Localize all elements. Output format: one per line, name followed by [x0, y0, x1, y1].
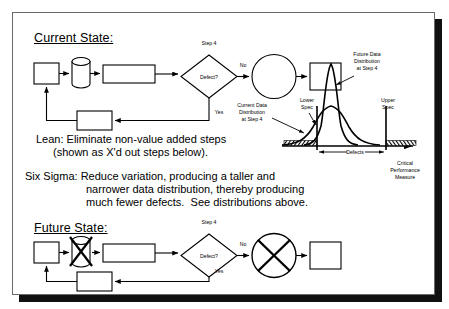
defect-region-upper — [386, 141, 416, 146]
current-path-yes — [115, 98, 209, 121]
current-state-heading: Current State: — [34, 31, 113, 45]
upper-spec-label-line1: Upper — [371, 97, 405, 104]
slide-root: Current State: Future State: Lean: Elimi… — [0, 0, 449, 309]
lean-text-line-2: (shown as X'd out steps below). — [53, 146, 208, 158]
future-state-heading: Future State: — [34, 221, 108, 235]
future-no-label: No — [235, 241, 251, 248]
current-distribution-label-line2: Distribution — [229, 109, 275, 116]
future-path-rework-to-start — [47, 266, 78, 282]
current-cylinder-shape — [72, 58, 90, 88]
current-process-box — [103, 65, 155, 83]
sixsigma-text-line-2: narrower data distribution, thereby prod… — [86, 183, 304, 195]
current-state-flowchart — [34, 55, 341, 131]
future-process-box — [103, 244, 155, 262]
future-state-flowchart — [34, 234, 341, 292]
leader-lower-spec — [309, 113, 316, 125]
x-axis-label-line2: Performance — [377, 167, 433, 174]
current-no-label: No — [235, 62, 251, 69]
defects-label: Defects — [338, 149, 372, 156]
future-distribution-label-line2: Distribution — [344, 58, 390, 65]
future-path-yes — [115, 277, 209, 282]
current-yes-label: Yes — [211, 109, 227, 116]
x-axis-label-line1: Critical — [377, 160, 433, 167]
current-rework-box — [77, 111, 112, 130]
sixsigma-text-line-1: Six Sigma: Reduce variation, producing a… — [25, 170, 275, 182]
current-step4-label: Step 4 — [195, 40, 223, 47]
future-rework-box — [77, 272, 112, 291]
upper-spec-label-line2: Spec — [371, 104, 405, 111]
leader-current-distribution — [272, 118, 304, 133]
x-axis-label-line3: Measure — [377, 174, 433, 181]
current-distribution-label-line3: at Step 4 — [229, 116, 275, 123]
future-distribution-label-line3: at Step 4 — [344, 65, 390, 72]
future-distribution-label-line1: Future Data — [344, 51, 390, 58]
future-yes-label: Yes — [211, 268, 227, 275]
future-step4-label: Step 4 — [195, 219, 223, 226]
current-start-box — [34, 63, 59, 84]
lower-spec-label-line2: Spec — [290, 104, 324, 111]
lower-spec-label-line1: Lower — [290, 97, 324, 104]
curve-current-distribution — [282, 106, 380, 145]
current-path-rework-to-start — [47, 87, 78, 121]
future-end-box — [310, 242, 341, 269]
future-start-box — [34, 242, 59, 263]
future-circle-crossed-out — [252, 234, 296, 278]
current-decision-label: Defect? — [195, 74, 223, 81]
current-distribution-label-line1: Current Data — [229, 102, 275, 109]
future-cylinder-crossed-out — [70, 237, 92, 267]
future-decision-label: Defect? — [195, 253, 223, 260]
slide-frame: Current State: Future State: Lean: Elimi… — [12, 12, 435, 295]
current-circle-node — [252, 55, 296, 99]
sixsigma-text-line-3: much fewer defects. See distributions ab… — [86, 196, 308, 208]
lean-text-line-1: Lean: Eliminate non-value added steps — [36, 133, 226, 145]
